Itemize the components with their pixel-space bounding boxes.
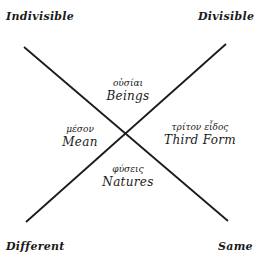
- english-term-natures: Natures: [96, 175, 160, 189]
- corner-label-divisible: Divisible: [198, 10, 254, 23]
- region-natures: φύσεις Natures: [96, 164, 160, 189]
- corner-label-indivisible: Indivisible: [6, 10, 74, 23]
- english-term-mean: Mean: [50, 135, 110, 149]
- corner-label-same: Same: [218, 240, 253, 253]
- corner-label-different: Different: [6, 240, 65, 253]
- english-term-third-form: Third Form: [155, 133, 245, 147]
- greek-term-physeis: φύσεις: [96, 164, 160, 175]
- english-term-beings: Beings: [96, 89, 160, 103]
- greek-term-triton-eidos: τρίτον εἶδος: [155, 122, 245, 133]
- greek-term-meson: μέσον: [50, 124, 110, 135]
- greek-term-ousiai: οὐσίαι: [96, 78, 160, 89]
- region-mean: μέσον Mean: [50, 124, 110, 149]
- region-beings: οὐσίαι Beings: [96, 78, 160, 103]
- region-third-form: τρίτον εἶδος Third Form: [155, 122, 245, 147]
